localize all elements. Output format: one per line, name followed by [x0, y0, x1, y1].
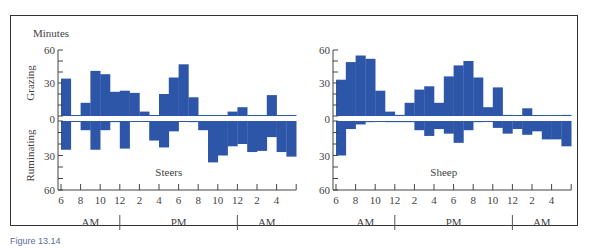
grazing-bar [286, 115, 296, 116]
grazing-bar [188, 97, 198, 116]
ruminating-bar [356, 121, 366, 124]
ruminating-bar [286, 121, 296, 157]
ruminating-bar [503, 121, 513, 134]
grazing-bar [493, 87, 503, 116]
grazing-bar [336, 80, 346, 116]
x-tick-label: 2 [412, 194, 418, 206]
y-tick-label: 60 [319, 184, 331, 196]
ruminating-bar [71, 121, 81, 122]
y-tick-label: 30 [44, 150, 56, 162]
y-tick-label: 60 [44, 44, 56, 56]
grazing-bar [552, 115, 562, 116]
ruminating-bar [346, 121, 356, 129]
ruminating-bar [267, 121, 277, 137]
x-tick-label: 6 [451, 194, 457, 206]
ruminating-bar [336, 121, 346, 156]
x-tick-label: 10 [487, 194, 499, 206]
ruminating-bar [561, 121, 571, 146]
ruminating-bar [414, 121, 424, 130]
ruminating-bar [552, 121, 562, 139]
grazing-bar [561, 115, 571, 116]
grazing-bar [424, 86, 434, 116]
ruminating-bar [522, 121, 532, 135]
ruminating-bar [139, 121, 149, 122]
grazing-ruminating-chart: 6030030606810122468101224AMPMAMSteersMin… [0, 0, 590, 248]
grazing-bar [61, 79, 71, 116]
x-tick-label: 12 [507, 194, 518, 206]
ruminating-bar [179, 121, 189, 122]
x-tick-label: 4 [549, 194, 555, 206]
x-tick-label: 4 [274, 194, 280, 206]
y-tick-label: 0 [50, 113, 56, 125]
panel-steers: 6030030606810122468101224AMPMAMSteersMin… [24, 27, 297, 230]
ruminating-bar [100, 121, 110, 130]
x-tick-label: 8 [470, 194, 476, 206]
x-tick-label: 2 [254, 194, 260, 206]
x-tick-label: 6 [176, 194, 182, 206]
grazing-bar [483, 107, 493, 116]
ruminating-bar [405, 121, 415, 122]
grazing-bar [120, 91, 130, 116]
ruminating-bar [149, 121, 159, 141]
grazing-bar [454, 65, 464, 116]
period-label-pm: PM [171, 216, 187, 228]
grazing-bar [277, 115, 287, 116]
grazing-bar [90, 71, 100, 116]
period-label-am-2: AM [258, 216, 276, 228]
ruminating-bar [61, 121, 71, 150]
grazing-bar [532, 115, 542, 116]
grazing-bar [346, 62, 356, 116]
ruminating-bar [473, 121, 483, 122]
ruminating-bar [257, 121, 267, 151]
ruminating-bar [120, 121, 130, 149]
ruminating-bar [454, 121, 464, 143]
ruminating-bar [208, 121, 218, 162]
y-unit-label: Minutes [33, 27, 69, 39]
x-tick-label: 12 [114, 194, 125, 206]
grazing-bar [218, 115, 228, 116]
ruminating-bar [188, 121, 198, 122]
y-label-grazing: Grazing [24, 65, 36, 101]
y-tick-label: 60 [44, 184, 56, 196]
ruminating-bar [493, 121, 503, 128]
ruminating-bar [385, 121, 395, 122]
ruminating-bar [395, 121, 405, 122]
grazing-bar [100, 74, 110, 116]
x-tick-label: 2 [529, 194, 535, 206]
y-tick-label: 30 [319, 150, 331, 162]
grazing-bar [365, 59, 375, 116]
x-tick-label: 6 [58, 194, 64, 206]
ruminating-bar [218, 121, 228, 156]
ruminating-bar [365, 121, 375, 122]
ruminating-bar [542, 121, 552, 139]
ruminating-bar [159, 121, 169, 147]
grazing-bar [395, 115, 405, 116]
ruminating-bar [375, 121, 385, 122]
x-tick-label: 10 [95, 194, 107, 206]
period-label-am: AM [82, 216, 100, 228]
ruminating-bar [483, 121, 493, 122]
grazing-bar [71, 115, 81, 116]
ruminating-bar [228, 121, 238, 146]
grazing-bar [139, 112, 149, 116]
grazing-bar [247, 115, 257, 116]
grazing-bar [542, 115, 552, 116]
x-tick-label: 12 [389, 194, 400, 206]
y-tick-label: 30 [44, 77, 56, 89]
grazing-bar [257, 115, 267, 116]
grazing-bar [81, 103, 91, 116]
grazing-bar [385, 112, 395, 116]
panel-title: Steers [155, 166, 182, 178]
ruminating-bar [237, 121, 247, 144]
y-tick-label: 0 [325, 113, 331, 125]
ruminating-bar [247, 121, 257, 152]
grazing-bar [208, 115, 218, 116]
ruminating-bar [277, 121, 287, 152]
grazing-bar [414, 90, 424, 116]
ruminating-bar [434, 121, 444, 129]
panel-sheep: 6030030606810122468101224AMPMAMSheep [319, 44, 572, 230]
x-tick-label: 10 [212, 194, 224, 206]
grazing-bar [444, 76, 454, 116]
period-label-pm: PM [446, 216, 462, 228]
grazing-bar [149, 115, 159, 116]
